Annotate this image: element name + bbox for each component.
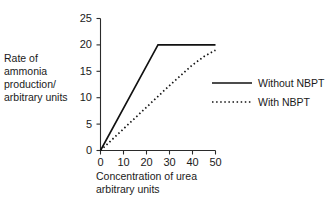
y-axis-ticks — [97, 19, 101, 151]
legend-label-with-nbpt: With NBPT — [258, 96, 310, 108]
y-tick-label-10: 10 — [62, 92, 92, 103]
y-tick-label-5: 5 — [62, 119, 92, 130]
series-group — [101, 45, 216, 151]
x-axis-title: Concentration of urea arbitrary units — [96, 170, 246, 196]
x-axis-ticks — [101, 151, 216, 155]
legend-label-without-nbpt: Without NBPT — [258, 77, 325, 89]
y-tick-label-15: 15 — [62, 66, 92, 77]
series-with-nbpt — [101, 50, 216, 150]
y-axis-title-line-3: production/ — [4, 78, 84, 91]
x-tick-label-50: 50 — [202, 157, 230, 168]
x-axis-title-line-1: Concentration of urea — [96, 170, 246, 183]
legend-swatches — [212, 83, 252, 102]
x-axis-title-line-2: arbitrary units — [96, 183, 246, 196]
y-tick-label-25: 25 — [62, 13, 92, 24]
axes-group — [97, 19, 216, 155]
y-axis-title-line-1: Rate of — [4, 52, 84, 65]
series-without-nbpt — [101, 45, 216, 151]
y-tick-label-20: 20 — [62, 39, 92, 50]
y-tick-label-0: 0 — [62, 145, 92, 156]
